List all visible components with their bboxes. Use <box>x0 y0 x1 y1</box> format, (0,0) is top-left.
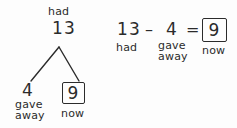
equation-minuend: 13 <box>117 21 141 38</box>
equation-answer-box[interactable]: 9 <box>202 18 227 42</box>
equation-subtrahend: 4 <box>166 21 178 38</box>
equation-answer-label: now <box>202 45 225 56</box>
equation-minus-operator: – <box>145 22 153 38</box>
worksheet-canvas: had 13 4 gave away 9 now 13 had – 4 gave… <box>0 0 237 128</box>
bond-right-part-label: now <box>61 108 84 119</box>
bond-right-part-answer-box[interactable]: 9 <box>62 82 85 104</box>
equation-answer-value: 9 <box>208 22 220 39</box>
bond-right-part-value: 9 <box>67 85 79 102</box>
bond-branch-right <box>59 47 79 81</box>
bond-left-part-value: 4 <box>22 82 34 99</box>
equation-minuend-label: had <box>116 42 137 53</box>
bond-left-part-label-line2: away <box>15 109 45 122</box>
bond-branch-left <box>31 47 59 81</box>
equation-subtrahend-label: gave away <box>158 41 188 62</box>
equation-subtrahend-label-line2: away <box>158 50 188 63</box>
equation-equals-operator: = <box>186 22 200 38</box>
bond-left-part-label: gave away <box>15 100 45 121</box>
